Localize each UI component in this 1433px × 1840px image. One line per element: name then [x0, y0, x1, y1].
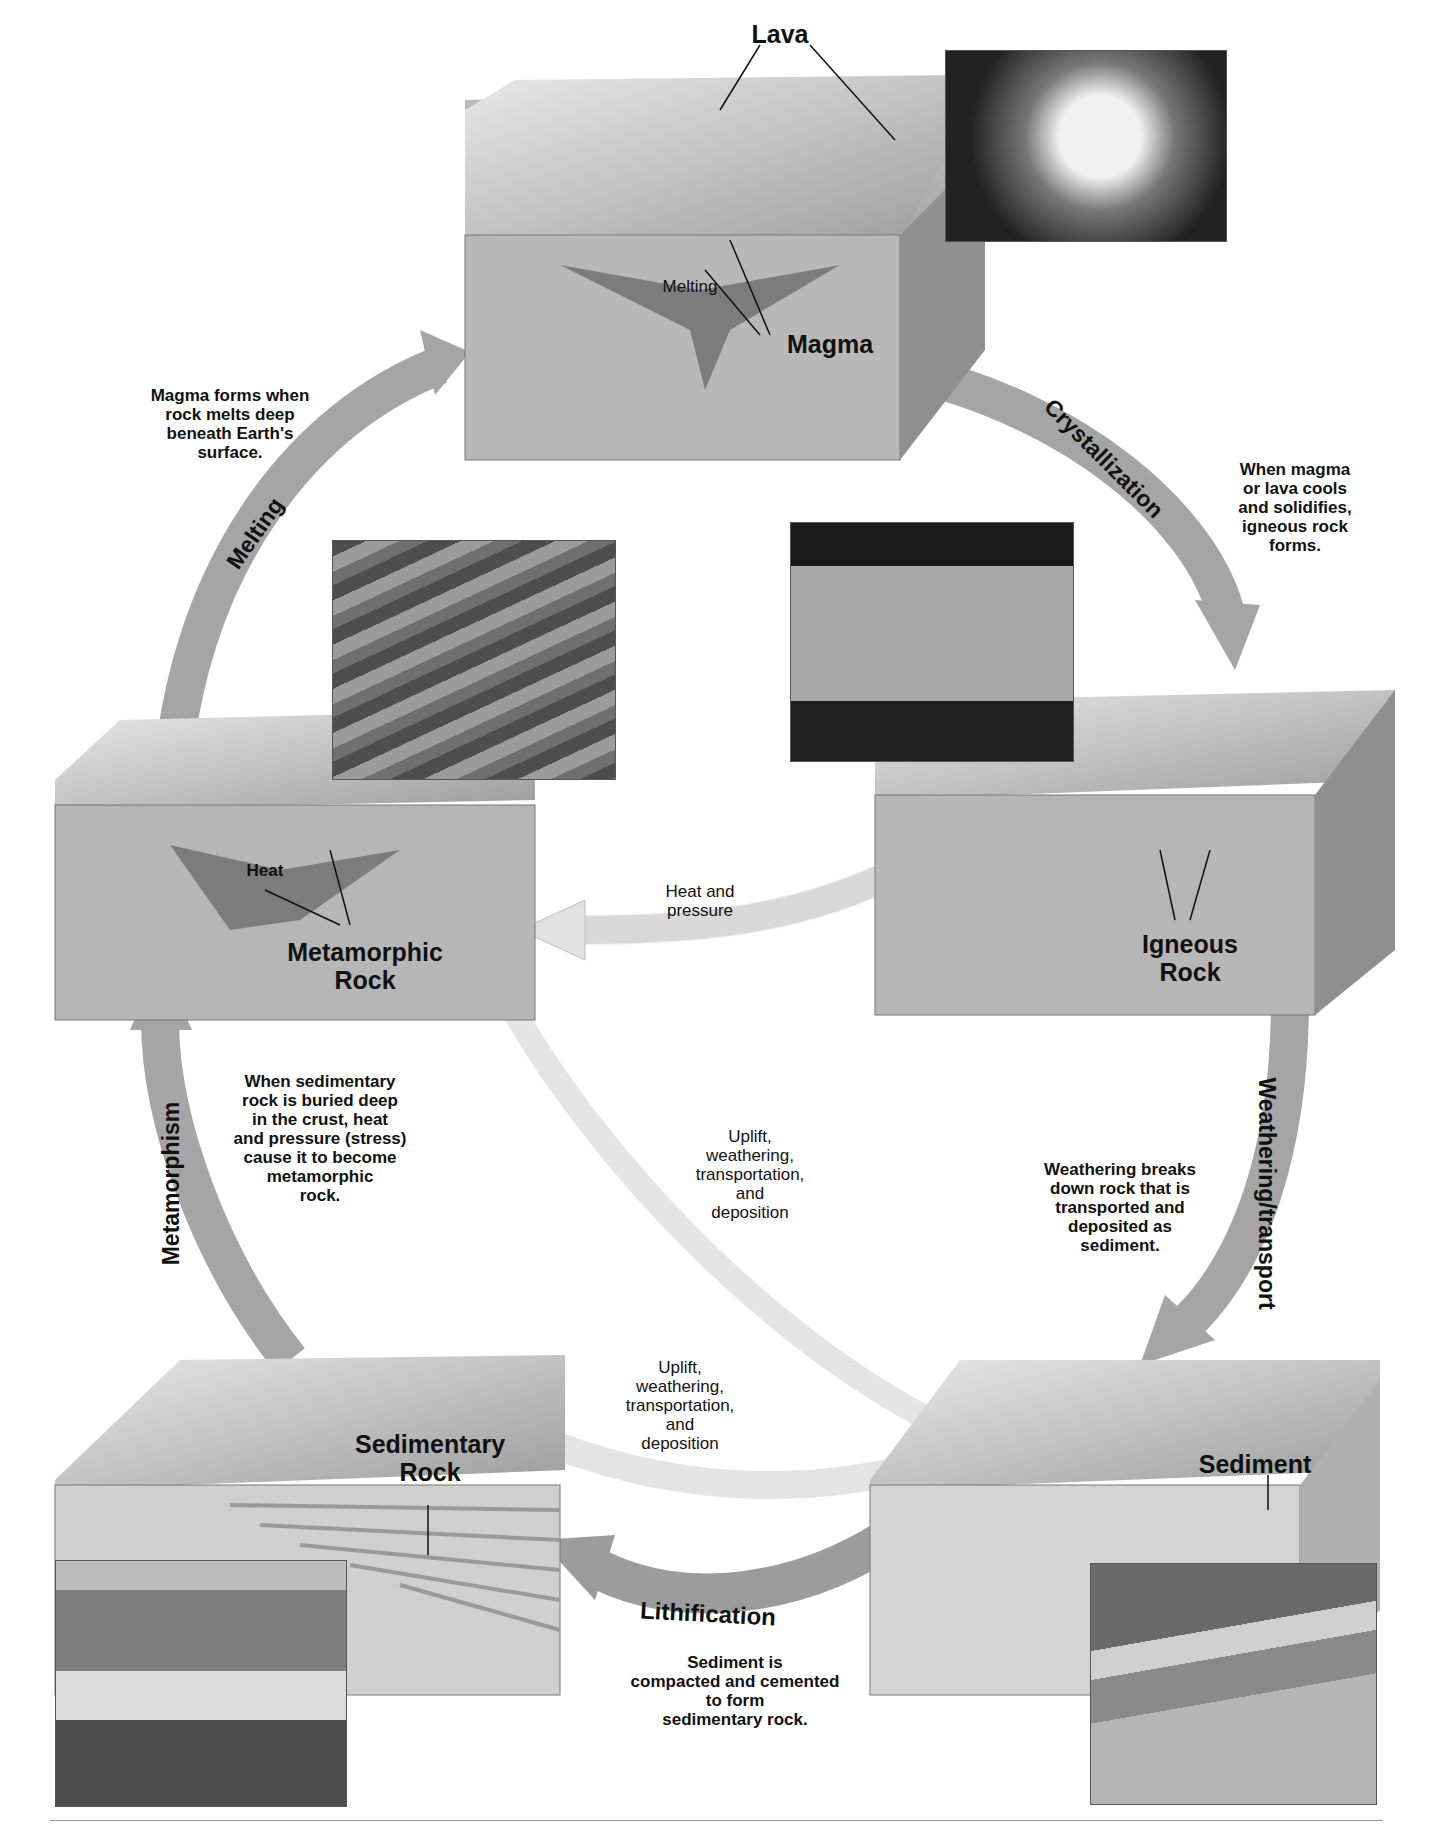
note-line: igneous rock — [1190, 517, 1400, 536]
uplift-line: weathering, — [585, 1377, 775, 1396]
note-line: rock. — [200, 1186, 440, 1205]
igneous-label-line2: Rock — [1110, 958, 1270, 986]
note-line: surface. — [105, 443, 355, 462]
uplift-line: deposition — [655, 1203, 845, 1222]
uplift-bottom-label: Uplift, weathering, transportation, and … — [585, 1358, 775, 1453]
magma-label: Magma — [760, 330, 900, 358]
note-line: in the crust, heat — [200, 1110, 440, 1129]
uplift-line: and — [655, 1184, 845, 1203]
sedimentary-rock-label: Sedimentary Rock — [320, 1430, 540, 1486]
note-line: deposited as — [1005, 1217, 1235, 1236]
note-line: When sedimentary — [200, 1072, 440, 1091]
uplift-line: Uplift, — [585, 1358, 775, 1377]
uplift-center-label: Uplift, weathering, transportation, and … — [655, 1127, 845, 1222]
note-line: and pressure (stress) — [200, 1129, 440, 1148]
heat-pressure-line: Heat and — [620, 882, 780, 901]
weathering-process-label: Weathering/transport — [1253, 1077, 1280, 1309]
uplift-line: Uplift, — [655, 1127, 845, 1146]
melting-label: Melting — [640, 277, 740, 296]
note-line: forms. — [1190, 536, 1400, 555]
metamorphic-label-line1: Metamorphic — [250, 938, 480, 966]
lava-photo — [945, 50, 1227, 242]
note-line: Magma forms when — [105, 386, 355, 405]
note-line: metamorphic — [200, 1167, 440, 1186]
uplift-line: and — [585, 1415, 775, 1434]
metamorphic-rock-label: Metamorphic Rock — [250, 938, 480, 994]
metamorphic-label-line2: Rock — [250, 966, 480, 994]
uplift-line: deposition — [585, 1434, 775, 1453]
heat-pressure-line: pressure — [620, 901, 780, 920]
weathering-note: Weathering breaks down rock that is tran… — [1005, 1160, 1235, 1255]
lava-label: Lava — [730, 20, 830, 48]
note-line: Weathering breaks — [1005, 1160, 1235, 1179]
note-line: compacted and cemented — [590, 1672, 880, 1691]
metamorphism-note: When sedimentary rock is buried deep in … — [200, 1072, 440, 1205]
canyon-photo — [55, 1560, 347, 1807]
sediment-label: Sediment — [1160, 1450, 1350, 1478]
note-line: sedimentary rock. — [590, 1710, 880, 1729]
note-line: sediment. — [1005, 1236, 1235, 1255]
sedimentary-label-line2: Rock — [320, 1458, 540, 1486]
note-line: When magma — [1190, 460, 1400, 479]
note-line: cause it to become — [200, 1148, 440, 1167]
note-line: rock is buried deep — [200, 1091, 440, 1110]
note-line: rock melts deep — [105, 405, 355, 424]
metamorphic-rock-photo — [332, 540, 616, 780]
igneous-label-line1: Igneous — [1110, 930, 1270, 958]
heat-pressure-label: Heat and pressure — [620, 882, 780, 920]
lithification-note: Sediment is compacted and cemented to fo… — [590, 1653, 880, 1729]
sedimentary-label-line1: Sedimentary — [320, 1430, 540, 1458]
igneous-rock-label: Igneous Rock — [1110, 930, 1270, 986]
footer-divider — [50, 1820, 1383, 1821]
uplift-line: transportation, — [585, 1396, 775, 1415]
uplift-line: weathering, — [655, 1146, 845, 1165]
half-dome-photo — [790, 522, 1074, 762]
river-delta-photo — [1090, 1563, 1377, 1805]
metamorphism-process-label: Metamorphism — [158, 1102, 185, 1266]
uplift-line: transportation, — [655, 1165, 845, 1184]
magma-block — [465, 75, 985, 460]
magma-forms-note: Magma forms when rock melts deep beneath… — [105, 386, 355, 462]
note-line: beneath Earth's — [105, 424, 355, 443]
note-line: Sediment is — [590, 1653, 880, 1672]
note-line: down rock that is — [1005, 1179, 1235, 1198]
heat-label: Heat — [225, 861, 305, 880]
lithification-arrow — [540, 1530, 900, 1600]
crystallization-note: When magma or lava cools and solidifies,… — [1190, 460, 1400, 555]
note-line: or lava cools — [1190, 479, 1400, 498]
note-line: transported and — [1005, 1198, 1235, 1217]
note-line: to form — [590, 1691, 880, 1710]
note-line: and solidifies, — [1190, 498, 1400, 517]
